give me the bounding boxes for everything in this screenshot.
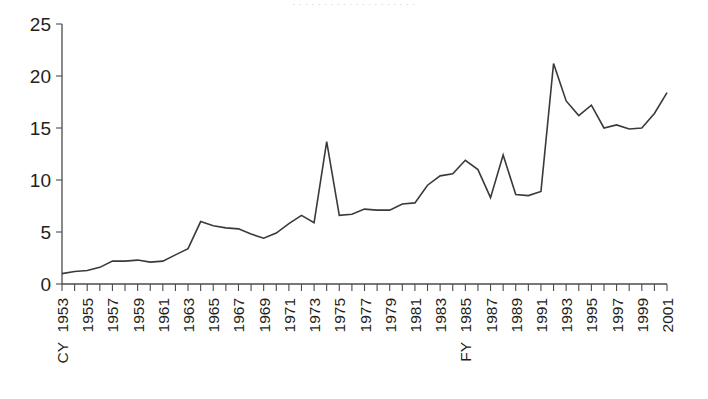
svg-text:CY: CY: [54, 342, 71, 364]
svg-text:1995: 1995: [583, 298, 600, 332]
y-tick-label: 20: [30, 66, 51, 87]
x-tick-label: 1963: [180, 298, 197, 332]
svg-text:1975: 1975: [331, 298, 348, 332]
svg-text:1953: 1953: [54, 298, 71, 332]
svg-text:1977: 1977: [357, 298, 374, 332]
series-line: [62, 64, 667, 274]
svg-text:1989: 1989: [508, 298, 525, 332]
svg-text:1973: 1973: [306, 298, 323, 332]
y-tick-label: 10: [30, 170, 51, 191]
x-tick-label: 1985FY: [457, 298, 474, 362]
svg-text:2001: 2001: [659, 298, 676, 332]
line-chart-plot: 0510152025 1953CY19551957195919611963196…: [0, 0, 708, 399]
x-tick-label: 1997: [609, 298, 626, 332]
data-series: [62, 64, 667, 274]
x-tick-label: 1993: [558, 298, 575, 332]
svg-text:1961: 1961: [155, 298, 172, 332]
x-tick-label: 2001: [659, 298, 676, 332]
y-tick-label: 25: [30, 14, 51, 35]
x-tick-label: 1973: [306, 298, 323, 332]
svg-text:1981: 1981: [407, 298, 424, 332]
svg-text:1957: 1957: [104, 298, 121, 332]
svg-text:1979: 1979: [382, 298, 399, 332]
chart-figure: · · · · · · · · · · · · · · · · · · · · …: [0, 0, 708, 399]
svg-text:1967: 1967: [230, 298, 247, 332]
x-tick-label: 1987: [483, 298, 500, 332]
x-tick-label: 1961: [155, 298, 172, 332]
svg-text:1997: 1997: [609, 298, 626, 332]
svg-text:1993: 1993: [558, 298, 575, 332]
x-tick-label: 1989: [508, 298, 525, 332]
svg-text:1971: 1971: [281, 298, 298, 332]
x-tick-label: 1957: [104, 298, 121, 332]
x-axis: [62, 284, 667, 291]
x-tick-label: 1983: [432, 298, 449, 332]
svg-text:1965: 1965: [205, 298, 222, 332]
svg-text:1959: 1959: [130, 298, 147, 332]
x-tick-label: 1995: [583, 298, 600, 332]
x-tick-label: 1991: [533, 298, 550, 332]
x-tick-label: 1981: [407, 298, 424, 332]
x-tick-label: 1979: [382, 298, 399, 332]
svg-text:1999: 1999: [634, 298, 651, 332]
svg-text:1987: 1987: [483, 298, 500, 332]
svg-text:1985: 1985: [457, 298, 474, 332]
x-tick-label: 1969: [256, 298, 273, 332]
y-tick-label: 5: [40, 222, 51, 243]
x-tick-label: 1971: [281, 298, 298, 332]
svg-text:FY: FY: [457, 342, 474, 362]
svg-text:1969: 1969: [256, 298, 273, 332]
x-tick-label: 1999: [634, 298, 651, 332]
x-tick-label: 1975: [331, 298, 348, 332]
y-tick-label: 15: [30, 118, 51, 139]
y-axis: 0510152025: [30, 14, 62, 295]
x-tick-label: 1965: [205, 298, 222, 332]
x-tick-label: 1977: [357, 298, 374, 332]
y-tick-label: 0: [40, 274, 51, 295]
svg-text:1963: 1963: [180, 298, 197, 332]
x-tick-label: 1967: [230, 298, 247, 332]
svg-text:1983: 1983: [432, 298, 449, 332]
x-tick-label: 1953CY: [54, 298, 71, 364]
svg-text:1991: 1991: [533, 298, 550, 332]
x-tick-label: 1959: [130, 298, 147, 332]
x-tick-label: 1955: [79, 298, 96, 332]
x-axis-tick-labels: 1953CY1955195719591961196319651967196919…: [54, 298, 676, 364]
svg-text:1955: 1955: [79, 298, 96, 332]
